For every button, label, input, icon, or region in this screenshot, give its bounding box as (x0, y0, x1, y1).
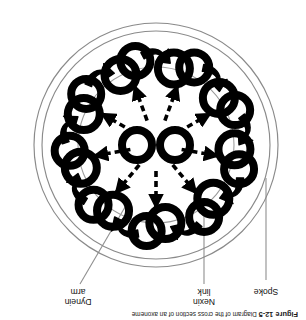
radial-spoke-dashed-6 (165, 87, 177, 121)
rotated-page-content: Figure 12-5 Diagram of the cross section… (0, 0, 306, 320)
central-microtubule-left (160, 130, 190, 160)
outer-doublet-8 (218, 133, 254, 204)
radial-spoke-dashed-2 (116, 165, 139, 193)
radial-spoke-dashed-5 (135, 87, 147, 121)
doublet-subfiber-b-2 (79, 190, 109, 220)
central-pair-microtubules (122, 130, 190, 160)
figure-root: Figure 12-5 Diagram of the cross section… (0, 0, 306, 320)
radial-spoke-dashed-9 (173, 165, 196, 193)
central-microtubule-right (122, 130, 152, 160)
axoneme-diagram (0, 0, 306, 320)
